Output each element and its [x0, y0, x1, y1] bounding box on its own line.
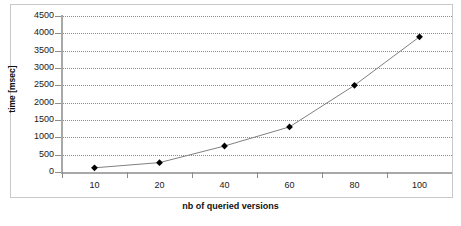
x-axis-tick — [192, 172, 193, 178]
gridline — [62, 68, 452, 69]
gridline — [62, 33, 452, 34]
y-axis-tick-label: 4000 — [8, 28, 54, 37]
y-axis-line — [61, 15, 63, 173]
chart-container: time [msec] 0500100015002000250030003500… — [0, 0, 461, 226]
x-axis-tick — [257, 172, 258, 178]
x-axis-tick — [62, 172, 63, 178]
x-axis-title: nb of queried versions — [0, 201, 461, 211]
y-axis-tick-label: 3500 — [8, 46, 54, 55]
x-axis-tick-label: 60 — [270, 180, 310, 190]
gridline — [62, 155, 452, 156]
y-axis-tick-label: 1500 — [8, 115, 54, 124]
x-axis-tick — [322, 172, 323, 178]
y-axis-tick-label: 2000 — [8, 98, 54, 107]
x-axis-tick-label: 40 — [205, 180, 245, 190]
x-axis-tick-label: 10 — [75, 180, 115, 190]
x-axis-tick-label: 20 — [140, 180, 180, 190]
gridline — [62, 85, 452, 86]
y-axis-tick-label: 3000 — [8, 63, 54, 72]
y-axis-tick-label: 2500 — [8, 80, 54, 89]
gridline — [62, 51, 452, 52]
gridline — [62, 137, 452, 138]
gridline — [62, 120, 452, 121]
x-axis-tick-label: 80 — [335, 180, 375, 190]
x-axis-tick — [387, 172, 388, 178]
y-axis-tick-label: 500 — [8, 150, 54, 159]
x-axis-tick-label: 100 — [400, 180, 440, 190]
y-axis-tick-label: 0 — [8, 167, 54, 176]
gridline — [62, 103, 452, 104]
gridline — [62, 16, 452, 17]
x-axis-tick — [127, 172, 128, 178]
y-axis-tick-label: 4500 — [8, 11, 54, 20]
y-axis-tick-label: 1000 — [8, 132, 54, 141]
